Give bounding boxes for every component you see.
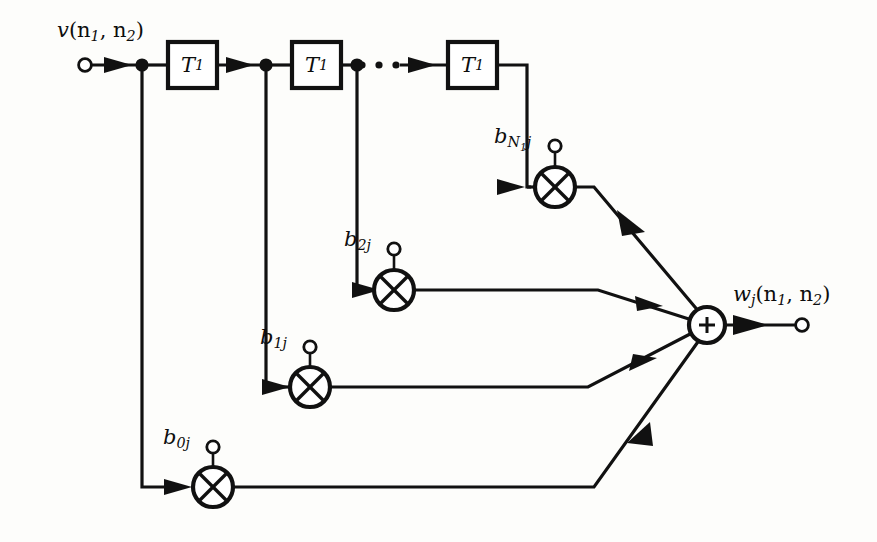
output-label-sub1: 1 xyxy=(777,292,786,308)
wire-multN-to-adder xyxy=(574,187,700,313)
coefficient-label-bN1j-sub-tail: j xyxy=(527,134,531,150)
terminal-b0j xyxy=(207,441,219,453)
ellipsis-dot-3 xyxy=(392,61,399,68)
diagram-canvas xyxy=(0,0,877,542)
signal-flow-diagram: v(n1, n2) wj(n1, n2) T1 T1 T1 b0j b1j b2… xyxy=(0,0,877,542)
arrow-into-mult0 xyxy=(164,479,192,495)
input-label-paren-open: (n xyxy=(69,18,91,42)
input-label-sub1: 1 xyxy=(91,28,100,44)
wire-mult0-to-adder xyxy=(233,339,700,487)
input-label-comma: , n xyxy=(100,18,127,42)
coefficient-label-bN1j-sub-lower: 1 xyxy=(520,141,527,153)
output-label-paren-close: ) xyxy=(822,282,830,306)
arrow-into-mult1 xyxy=(262,379,290,395)
coefficient-label-b0j: b0j xyxy=(163,427,190,451)
tap-node-1 xyxy=(259,58,272,71)
arrow-multN-to-adder xyxy=(617,210,645,236)
arrow-output xyxy=(733,315,768,335)
input-label-paren-close: ) xyxy=(136,18,144,42)
coefficient-label-b0j-sub: 0j xyxy=(176,435,190,451)
output-label-paren-open: (n xyxy=(755,282,777,306)
coefficient-label-b1j: b1j xyxy=(260,327,287,351)
input-label-sub2: 2 xyxy=(127,28,136,44)
tap-node-2 xyxy=(350,58,363,71)
arrow-input xyxy=(104,57,132,73)
coefficient-label-b1j-symbol: b xyxy=(260,325,273,349)
delay-block-2 xyxy=(292,42,341,88)
terminal-b1j xyxy=(304,341,316,353)
arrow-delay1-out xyxy=(226,57,254,73)
coefficient-label-bN1j-symbol: b xyxy=(494,124,507,148)
coefficient-label-b2j-sub: 2j xyxy=(357,237,371,253)
input-label: v(n1, n2) xyxy=(57,20,144,44)
arrow-into-delay3 xyxy=(408,57,436,73)
coefficient-label-b2j: b2j xyxy=(344,229,371,253)
tap-node-0 xyxy=(135,58,148,71)
wire-tap0-drop xyxy=(142,65,183,487)
output-label-w: w xyxy=(733,282,751,306)
arrow-mult1-to-adder xyxy=(629,354,657,371)
output-label-sub2: 2 xyxy=(813,292,822,308)
coefficient-label-b1j-sub: 1j xyxy=(273,335,287,351)
coefficient-label-bN1j-sub-upper: N xyxy=(507,134,519,150)
coefficient-label-bN1j: bN1j xyxy=(494,126,531,152)
terminal-b2j xyxy=(388,243,400,255)
input-label-v: v xyxy=(57,18,69,42)
delay-block-1 xyxy=(168,42,217,88)
wire-tap2-drop xyxy=(357,65,358,290)
terminal-bN1j xyxy=(549,140,561,152)
coefficient-label-b2j-symbol: b xyxy=(344,227,357,251)
delay-block-3 xyxy=(448,42,497,88)
coefficient-label-b0j-symbol: b xyxy=(163,425,176,449)
ellipsis-dot-2 xyxy=(375,61,382,68)
terminal-output xyxy=(796,319,809,332)
terminal-input xyxy=(79,59,92,72)
arrow-into-multN xyxy=(497,179,525,195)
output-label: wj(n1, n2) xyxy=(733,284,830,308)
output-label-comma: , n xyxy=(786,282,813,306)
